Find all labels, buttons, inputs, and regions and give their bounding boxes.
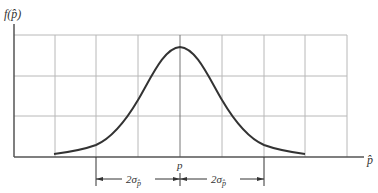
arrowhead-center-left <box>173 177 180 181</box>
center-label: p <box>176 159 183 171</box>
normal-distribution-diagram: f(p̂) p̂ p 2σp̂ 2σp̂ <box>0 0 378 193</box>
x-axis-label: p̂ <box>366 153 373 167</box>
y-axis-label: f(p̂) <box>4 7 21 21</box>
arrowhead-left <box>96 177 103 181</box>
left-span-label: 2σp̂ <box>126 173 141 188</box>
arrowhead-right <box>257 177 264 181</box>
right-span-label: 2σp̂ <box>211 173 226 188</box>
arrowhead-center-right <box>180 177 187 181</box>
